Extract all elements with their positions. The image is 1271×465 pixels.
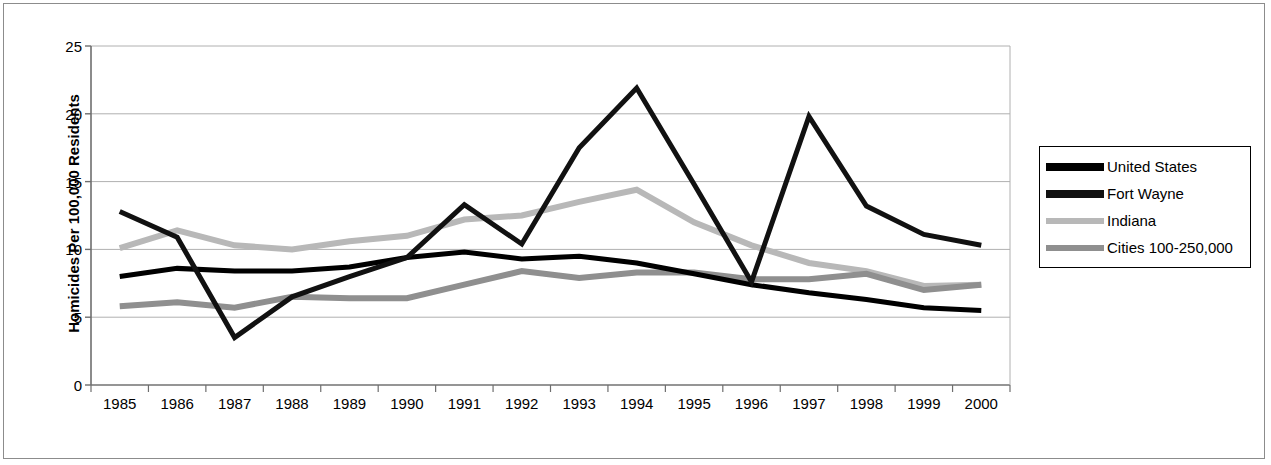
legend-swatch-1 — [1046, 163, 1104, 171]
legend-label: Fort Wayne — [1107, 185, 1184, 202]
legend-swatch-3 — [1046, 218, 1104, 224]
chart-legend: United StatesFort WayneIndianaCities 100… — [1039, 146, 1251, 268]
line-chart: Homicides Per 100,000 Residents 05101520… — [0, 0, 1271, 465]
x-axis-ticks — [91, 385, 1010, 392]
legend-item[interactable]: United States — [1046, 153, 1244, 180]
legend-label: Indiana — [1107, 212, 1156, 229]
legend-item[interactable]: Fort Wayne — [1046, 180, 1244, 207]
series-line — [120, 271, 982, 308]
chart-page: Homicides Per 100,000 Residents 05101520… — [0, 0, 1271, 465]
legend-swatch-2 — [1046, 190, 1104, 198]
axis-lines — [85, 46, 1010, 385]
legend-swatch-4 — [1046, 245, 1104, 251]
legend-label: United States — [1107, 158, 1197, 175]
gridlines — [91, 46, 1010, 385]
x-tick-label: 2000 — [946, 395, 1016, 412]
legend-item[interactable]: Indiana — [1046, 207, 1244, 234]
series-lines — [120, 88, 982, 338]
legend-label: Cities 100-250,000 — [1107, 239, 1233, 256]
legend-item[interactable]: Cities 100-250,000 — [1046, 234, 1244, 261]
series-line — [120, 252, 982, 310]
